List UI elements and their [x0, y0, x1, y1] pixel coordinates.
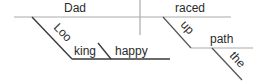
- sentence-diagram: Dad raced happy path Loo king up the: [0, 0, 266, 82]
- word-participle-b: king: [74, 44, 96, 58]
- word-complement: happy: [115, 44, 148, 58]
- word-adverb: up: [178, 18, 198, 38]
- word-subject: Dad: [64, 1, 86, 15]
- complement-divider: [98, 43, 111, 59]
- word-verb: raced: [175, 1, 205, 15]
- word-object: path: [210, 32, 233, 46]
